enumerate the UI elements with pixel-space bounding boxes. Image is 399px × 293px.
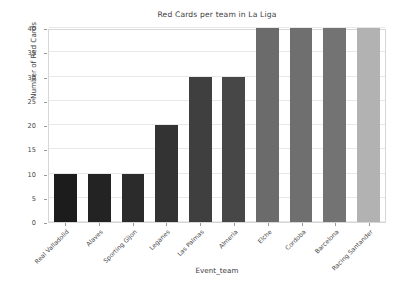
x-tick-label-text: Almeria (217, 228, 239, 250)
y-tick-mark (44, 175, 47, 176)
x-tick-label-text: Las Palmas (176, 228, 205, 257)
x-tick-mark (302, 223, 303, 226)
y-tick-mark (44, 29, 47, 30)
y-tick-label: 5 (0, 195, 36, 203)
x-tick-label-text: Barcelona (313, 228, 340, 255)
bar-series (49, 30, 385, 222)
x-tick-mark (268, 223, 269, 226)
y-tick-mark (44, 126, 47, 127)
x-tick-mark (200, 223, 201, 226)
bar-slot (351, 30, 385, 222)
bar-slot (318, 30, 352, 222)
y-tick-label: 20 (0, 122, 36, 130)
y-tick-label: 25 (0, 98, 36, 106)
x-tick-label-text: Sporting Gijon (101, 228, 137, 264)
page-title: Red Cards per team in La Liga (48, 10, 386, 19)
x-tick-mark (65, 223, 66, 226)
bar[interactable] (290, 28, 313, 222)
bar[interactable] (189, 77, 212, 223)
y-tick-mark (44, 223, 47, 224)
x-tick-label-text: Cordoba (283, 228, 306, 251)
x-tick-mark (133, 223, 134, 226)
chart-figure: Red Cards per team in La Liga Number of … (0, 0, 399, 293)
x-axis-ticks: Real ValladolidAlavesSporting GijonLegan… (48, 223, 386, 267)
bar-slot (183, 30, 217, 222)
x-tick-mark (234, 223, 235, 226)
x-tick-label-text: Elche (256, 228, 273, 245)
x-tick-label-text: Real Valladolid (33, 228, 70, 265)
y-tick-label: 35 (0, 49, 36, 57)
y-tick-label: 15 (0, 146, 36, 154)
x-axis-label: Event_team (48, 266, 386, 275)
y-tick-label: 10 (0, 171, 36, 179)
bar-slot (49, 30, 83, 222)
bar[interactable] (88, 174, 111, 223)
bar-slot (116, 30, 150, 222)
bar[interactable] (222, 77, 245, 223)
y-tick-mark (44, 199, 47, 200)
y-tick-mark (44, 102, 47, 103)
bar[interactable] (323, 28, 346, 222)
plot-area (48, 29, 386, 223)
bar-slot (251, 30, 285, 222)
bar[interactable] (122, 174, 145, 223)
bar[interactable] (155, 125, 178, 222)
bar-slot (150, 30, 184, 222)
bar-slot (83, 30, 117, 222)
y-tick-label: 0 (0, 219, 36, 227)
x-tick-mark (166, 223, 167, 226)
x-tick-label-text: Alaves (84, 228, 103, 247)
bar[interactable] (54, 174, 77, 223)
y-tick-label: 30 (0, 74, 36, 82)
bar[interactable] (357, 28, 380, 222)
y-tick-mark (44, 150, 47, 151)
bar-slot (284, 30, 318, 222)
x-tick-mark (335, 223, 336, 226)
x-tick-label-text: Leganes (148, 228, 171, 251)
y-tick-mark (44, 78, 47, 79)
x-tick-mark (369, 223, 370, 226)
x-tick-mark (99, 223, 100, 226)
y-tick-mark (44, 53, 47, 54)
y-tick-label: 40 (0, 25, 36, 33)
bar[interactable] (256, 28, 279, 222)
bar-slot (217, 30, 251, 222)
y-axis-ticks: 0510152025303540 (0, 29, 44, 223)
